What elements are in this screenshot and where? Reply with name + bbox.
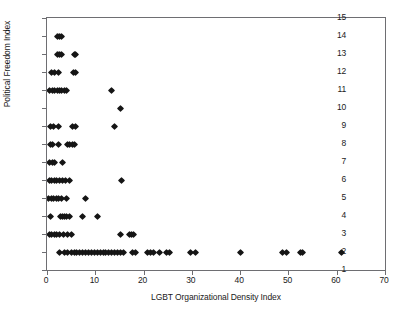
x-axis-tick-label: 20	[128, 276, 158, 285]
y-axis-tick	[42, 162, 47, 163]
x-axis-tick-label: 10	[79, 276, 109, 285]
data-point	[299, 248, 306, 255]
y-axis-tick	[42, 54, 47, 55]
y-axis-tick	[42, 72, 47, 73]
y-axis-tick	[42, 90, 47, 91]
data-point	[132, 248, 139, 255]
y-axis-tick	[42, 126, 47, 127]
data-point	[94, 212, 101, 219]
data-point	[55, 68, 62, 75]
data-point	[72, 50, 79, 57]
data-point	[130, 230, 137, 237]
x-axis-tick-label: 30	[176, 276, 206, 285]
y-axis-tick-label: 2	[322, 247, 346, 256]
y-axis-title: Political Freedom Index	[2, 0, 12, 144]
data-point	[55, 140, 62, 147]
data-point	[58, 50, 65, 57]
x-axis-tick-label: 60	[321, 276, 351, 285]
data-point	[71, 140, 78, 147]
y-axis-tick-label: 6	[322, 175, 346, 184]
data-point	[118, 176, 125, 183]
y-axis-tick-label: 8	[322, 139, 346, 148]
scatter-plot-figure: 123456789101112131415010203040506070 LGB…	[0, 0, 398, 315]
y-axis-tick	[42, 144, 47, 145]
y-axis-tick	[42, 252, 47, 253]
data-point	[111, 122, 118, 129]
y-axis-tick	[42, 234, 47, 235]
data-point	[59, 158, 66, 165]
data-point	[117, 230, 124, 237]
y-axis-tick-label: 4	[322, 211, 346, 220]
y-axis-tick-label: 15	[322, 13, 346, 22]
y-axis-tick-label: 5	[322, 193, 346, 202]
y-axis-tick-label: 7	[322, 157, 346, 166]
data-point	[117, 104, 124, 111]
y-axis-tick-label: 14	[322, 31, 346, 40]
data-point	[51, 158, 58, 165]
x-axis-tick-label: 50	[272, 276, 302, 285]
x-axis-title: LGBT Organizational Density Index	[46, 292, 386, 302]
data-point	[55, 122, 62, 129]
y-axis-tick-label: 11	[322, 85, 346, 94]
y-axis-tick-label: 13	[322, 49, 346, 58]
x-axis-tick-label: 40	[224, 276, 254, 285]
y-axis-tick	[42, 180, 47, 181]
data-point	[283, 248, 290, 255]
data-point	[63, 194, 70, 201]
y-axis-tick-label: 3	[322, 229, 346, 238]
data-point	[82, 194, 89, 201]
data-point	[108, 86, 115, 93]
y-axis-tick-label: 12	[322, 67, 346, 76]
data-point	[166, 248, 173, 255]
y-axis-tick-label: 1	[322, 265, 346, 274]
x-axis-tick-label: 70	[369, 276, 398, 285]
data-point	[237, 248, 244, 255]
data-point	[79, 212, 86, 219]
y-axis-tick	[42, 18, 47, 19]
data-point	[192, 248, 199, 255]
y-axis-tick	[42, 198, 47, 199]
data-point	[47, 212, 54, 219]
y-axis-tick-label: 9	[322, 121, 346, 130]
y-axis-tick	[42, 108, 47, 109]
y-axis-tick	[42, 216, 47, 217]
data-point	[58, 32, 65, 39]
y-axis-tick-label: 10	[322, 103, 346, 112]
data-point	[63, 86, 70, 93]
y-axis-tick	[42, 36, 47, 37]
x-axis-tick-label: 0	[31, 276, 61, 285]
